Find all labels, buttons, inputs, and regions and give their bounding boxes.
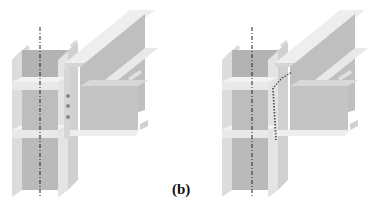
bolt-icon <box>66 94 70 98</box>
left-panel-bolted-connection <box>12 10 158 198</box>
beam-column-connection-diagram: (b) <box>0 0 373 213</box>
right-panel-welded-connection <box>222 10 368 198</box>
shear-tab <box>64 68 70 138</box>
bolt-icon <box>66 115 70 119</box>
figure-caption-label: (b) <box>172 181 190 198</box>
bolt-icon <box>66 104 70 108</box>
